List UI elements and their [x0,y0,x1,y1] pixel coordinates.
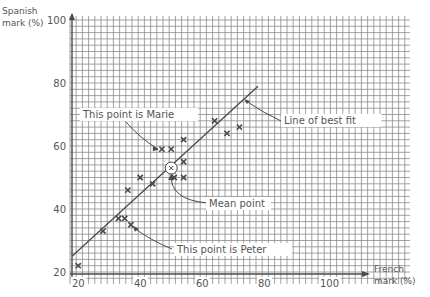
y-tick-label: 100 [47,15,66,26]
data-point-x-icon [116,216,121,221]
data-point-x-icon [128,222,133,227]
y-tick-label: 60 [53,141,66,152]
x-tick-label: 40 [134,278,147,289]
x-axis-label-line1: French [374,264,404,274]
data-point-x-icon [122,216,127,221]
x-axis-label-line2: mark (%) [374,276,416,286]
x-tick-label: 20 [72,278,85,289]
x-tick-label: 80 [258,278,271,289]
scatter-chart: 2040608010020406080100 This point is Mar… [0,0,430,297]
data-point-x-icon [159,147,164,152]
y-axis-label-line2: mark (%) [2,18,44,28]
x-tick-label: 100 [320,278,339,289]
mean-point-annotation: Mean point [209,198,265,209]
best-fit-annotation: Line of best fit [284,115,356,126]
y-tick-label: 40 [53,204,66,215]
marie-annotation: This point is Marie [82,109,174,120]
peter-annotation: This point is Peter [176,244,267,255]
y-axis-label-line1: Spanish [2,6,38,16]
y-tick-label: 80 [53,78,66,89]
x-tick-label: 60 [196,278,209,289]
y-tick-label: 20 [53,267,66,278]
